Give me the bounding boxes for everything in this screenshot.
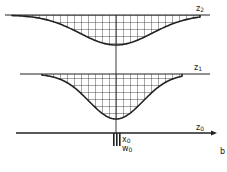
label-z2: z2 <box>196 5 204 13</box>
source-marker <box>113 133 121 146</box>
panel-label-text: b <box>220 147 225 156</box>
label-z2-sub: 2 <box>200 6 204 13</box>
arrowhead-icon <box>211 131 217 136</box>
label-z0: z0 <box>196 124 204 132</box>
label-x0-sub: 0 <box>127 137 131 144</box>
hatched-region-z2 <box>12 15 200 45</box>
level-z2 <box>5 15 210 45</box>
level-z1 <box>20 74 210 119</box>
label-w0: w0 <box>122 145 132 153</box>
label-z0-sub: 0 <box>200 125 204 132</box>
label-x0: x0 <box>122 136 131 144</box>
panel-label: b <box>220 148 225 156</box>
label-z1-sub: 1 <box>198 65 202 72</box>
label-z1: z1 <box>194 64 202 72</box>
label-w0-sub: 0 <box>129 146 133 153</box>
diagram-canvas <box>0 0 227 172</box>
